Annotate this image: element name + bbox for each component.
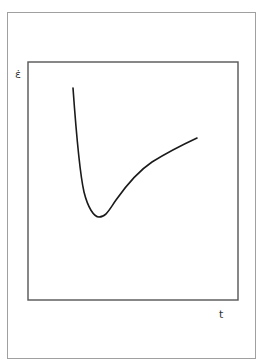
x-axis-label: t xyxy=(219,308,224,321)
plot-frame xyxy=(28,62,238,300)
creep-curve-figure: ε̇ t xyxy=(0,0,267,364)
outer-frame xyxy=(8,13,256,359)
y-axis-label: ε̇ xyxy=(15,68,21,81)
strain-rate-curve xyxy=(73,88,197,217)
figure-canvas: ε̇ t xyxy=(0,0,267,364)
